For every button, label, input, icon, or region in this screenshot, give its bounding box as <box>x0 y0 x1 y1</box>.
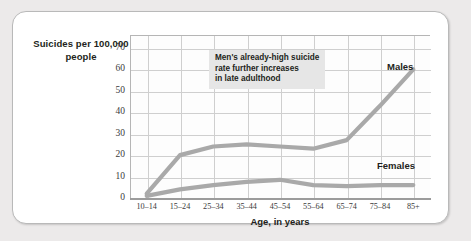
series-label-females: Females <box>377 160 415 171</box>
series-label-males: Males <box>387 61 413 72</box>
chart-card: Suicides per 100,000 people 010203040506… <box>12 11 449 224</box>
line-females <box>147 180 414 196</box>
series-lines <box>13 12 450 225</box>
chart-annotation: Men's already-high suicide rate further … <box>209 50 325 89</box>
chart-figure: Suicides per 100,000 people 010203040506… <box>0 0 471 241</box>
x-axis-title: Age, in years <box>130 216 430 227</box>
